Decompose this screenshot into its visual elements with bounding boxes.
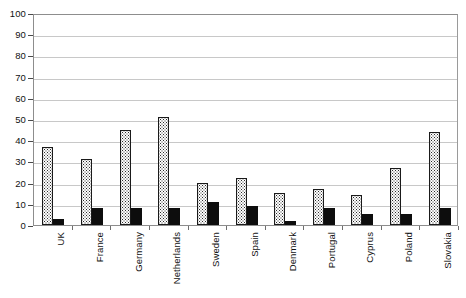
x-tick-mark (149, 226, 150, 230)
y-tick-label-100: 100 (0, 9, 26, 19)
y-tick-mark-60 (28, 99, 33, 100)
x-axis: UKFranceGermanyNetherlandsSwedenSpainDen… (33, 226, 458, 298)
y-tick-mark-70 (28, 78, 33, 79)
y-tick-mark-50 (28, 120, 33, 121)
bar-group (81, 15, 103, 225)
bar (120, 130, 131, 225)
bar (42, 147, 53, 225)
bar (236, 178, 247, 225)
x-tick-label-portugal: Portugal (326, 232, 337, 268)
bar (274, 193, 285, 225)
bar (351, 195, 362, 225)
bar (285, 221, 296, 225)
bar-group (313, 15, 335, 225)
x-tick-label-denmark: Denmark (287, 232, 298, 271)
x-tick-mark (303, 226, 304, 230)
x-tick-label-sweden: Sweden (210, 232, 221, 267)
x-tick-label-netherlands: Netherlands (171, 232, 182, 284)
y-tick-mark-90 (28, 35, 33, 36)
bar-group (429, 15, 451, 225)
x-tick-mark (188, 226, 189, 230)
bars-layer (34, 15, 457, 225)
bar (362, 214, 373, 225)
x-tick-label-uk: UK (55, 232, 66, 245)
y-tick-mark-0 (28, 226, 33, 227)
bar (440, 208, 451, 225)
bar-chart: 0102030405060708090100 UKFranceGermanyNe… (0, 0, 466, 298)
bar (429, 132, 440, 225)
bar (169, 208, 180, 225)
x-tick-label-cyprus: Cyprus (364, 232, 375, 263)
bar (208, 202, 219, 225)
x-tick-label-poland: Poland (403, 232, 414, 262)
y-tick-label-80: 80 (0, 51, 26, 61)
x-tick-mark (265, 226, 266, 230)
bar-group (351, 15, 373, 225)
bar-group (390, 15, 412, 225)
y-tick-label-20: 20 (0, 179, 26, 189)
y-tick-label-30: 30 (0, 157, 26, 167)
x-tick-mark (458, 226, 459, 230)
y-tick-label-10: 10 (0, 200, 26, 210)
y-tick-label-50: 50 (0, 115, 26, 125)
x-tick-mark (226, 226, 227, 230)
bar-group (120, 15, 142, 225)
y-tick-mark-30 (28, 162, 33, 163)
bar (313, 189, 324, 225)
y-tick-mark-100 (28, 14, 33, 15)
x-tick-label-slovakia: Slovakia (442, 232, 453, 269)
bar (92, 208, 103, 225)
x-tick-mark (419, 226, 420, 230)
y-tick-mark-80 (28, 56, 33, 57)
x-tick-mark (110, 226, 111, 230)
bar-group (197, 15, 219, 225)
bar-group (236, 15, 258, 225)
x-tick-label-spain: Spain (249, 232, 260, 257)
y-tick-mark-40 (28, 141, 33, 142)
bar (401, 214, 412, 225)
y-tick-mark-10 (28, 205, 33, 206)
bar-group (274, 15, 296, 225)
bar (247, 206, 258, 225)
bar (53, 219, 64, 225)
x-tick-label-germany: Germany (133, 232, 144, 272)
bar-group (42, 15, 64, 225)
bar-group (158, 15, 180, 225)
bar (131, 208, 142, 225)
y-tick-label-0: 0 (0, 221, 26, 231)
x-tick-mark (72, 226, 73, 230)
y-tick-label-70: 70 (0, 73, 26, 83)
y-tick-label-90: 90 (0, 30, 26, 40)
x-tick-mark (381, 226, 382, 230)
bar (390, 168, 401, 225)
plot-area (33, 14, 458, 226)
bar (158, 117, 169, 225)
bar (81, 159, 92, 225)
y-tick-mark-20 (28, 184, 33, 185)
y-tick-label-60: 60 (0, 94, 26, 104)
x-tick-label-france: France (94, 232, 105, 262)
y-tick-label-40: 40 (0, 136, 26, 146)
y-axis: 0102030405060708090100 (0, 0, 26, 240)
x-tick-mark (342, 226, 343, 230)
bar (197, 183, 208, 225)
bar (324, 208, 335, 225)
